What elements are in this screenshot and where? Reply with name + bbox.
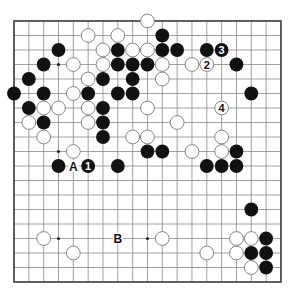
white-stone-icon bbox=[96, 43, 110, 57]
black-stone-icon bbox=[96, 130, 110, 144]
black-stone-icon bbox=[52, 159, 66, 173]
white-stone-icon bbox=[111, 29, 125, 43]
white-stone-icon bbox=[244, 232, 258, 246]
go-board[interactable]: 3124 AB bbox=[0, 0, 288, 294]
black-stone bbox=[141, 145, 155, 159]
black-stone-icon bbox=[22, 72, 36, 86]
go-board-canvas[interactable]: 3124 AB bbox=[0, 0, 288, 294]
black-stone bbox=[52, 43, 66, 57]
point-marker-b: B bbox=[113, 232, 122, 246]
black-stone bbox=[111, 43, 125, 57]
black-stone bbox=[230, 145, 244, 159]
black-stone-icon bbox=[96, 72, 110, 86]
black-stone-icon bbox=[52, 43, 66, 57]
white-stone bbox=[185, 145, 199, 159]
white-stone bbox=[230, 246, 244, 260]
black-stone-icon bbox=[200, 43, 214, 57]
white-stone bbox=[244, 232, 258, 246]
white-stone-icon bbox=[37, 130, 51, 144]
markers-layer: AB bbox=[68, 160, 122, 247]
black-stone-icon bbox=[244, 246, 258, 260]
black-stone-icon bbox=[259, 246, 273, 260]
white-stone bbox=[81, 29, 95, 43]
white-stone-icon bbox=[155, 72, 169, 86]
white-stone bbox=[155, 58, 169, 72]
black-stone bbox=[37, 116, 51, 130]
black-stone-icon bbox=[37, 58, 51, 72]
black-stone bbox=[155, 43, 169, 57]
black-stone-icon bbox=[37, 87, 51, 101]
white-stone-icon bbox=[81, 72, 95, 86]
white-stone bbox=[37, 130, 51, 144]
star-point bbox=[57, 237, 60, 240]
white-stone-icon bbox=[66, 87, 80, 101]
black-stone bbox=[259, 261, 273, 275]
black-stone-icon bbox=[259, 261, 273, 275]
white-stone-icon bbox=[126, 130, 140, 144]
white-stone-icon bbox=[141, 130, 155, 144]
black-stone-icon bbox=[230, 145, 244, 159]
white-stone bbox=[66, 58, 80, 72]
white-stone-icon bbox=[141, 43, 155, 57]
black-stone-icon bbox=[141, 58, 155, 72]
black-stone-icon bbox=[141, 145, 155, 159]
white-stone-icon bbox=[200, 246, 214, 260]
black-stone bbox=[96, 130, 110, 144]
black-stone bbox=[52, 159, 66, 173]
black-stone bbox=[81, 87, 95, 101]
white-stone-icon bbox=[22, 116, 36, 130]
black-stone bbox=[259, 246, 273, 260]
white-stone-icon bbox=[244, 261, 258, 275]
black-stone-icon bbox=[155, 43, 169, 57]
black-stone-icon bbox=[170, 43, 184, 57]
black-stone-icon bbox=[126, 87, 140, 101]
white-stone-icon bbox=[81, 116, 95, 130]
black-stone bbox=[96, 72, 110, 86]
white-stone-icon bbox=[66, 246, 80, 260]
move-number: 1 bbox=[85, 160, 91, 172]
white-stone bbox=[155, 72, 169, 86]
white-stone bbox=[37, 232, 51, 246]
point-marker-a: A bbox=[69, 160, 78, 174]
black-stone-icon bbox=[230, 159, 244, 173]
black-stone-icon bbox=[126, 72, 140, 86]
black-stone: 3 bbox=[215, 43, 229, 57]
white-stone bbox=[111, 29, 125, 43]
star-point bbox=[57, 63, 60, 66]
black-stone bbox=[155, 145, 169, 159]
black-stone bbox=[200, 43, 214, 57]
black-stone bbox=[215, 159, 229, 173]
black-stone bbox=[230, 58, 244, 72]
white-stone-icon bbox=[185, 145, 199, 159]
white-stone bbox=[96, 58, 110, 72]
star-point bbox=[146, 237, 149, 240]
black-stone-icon bbox=[155, 29, 169, 43]
black-stone bbox=[155, 29, 169, 43]
white-stone-icon bbox=[155, 58, 169, 72]
white-stone bbox=[81, 101, 95, 115]
white-stone-icon bbox=[52, 101, 66, 115]
white-stone-icon bbox=[141, 101, 155, 115]
black-stone bbox=[37, 58, 51, 72]
black-stone-icon bbox=[111, 159, 125, 173]
white-stone bbox=[52, 101, 66, 115]
black-stone-icon bbox=[22, 101, 36, 115]
black-stone bbox=[259, 232, 273, 246]
black-stone bbox=[37, 87, 51, 101]
white-stone bbox=[155, 232, 169, 246]
black-stone: 1 bbox=[81, 159, 95, 173]
move-number: 2 bbox=[204, 59, 210, 71]
white-stone bbox=[22, 116, 36, 130]
white-stone-icon bbox=[81, 29, 95, 43]
black-stone-icon bbox=[96, 101, 110, 115]
black-stone-icon bbox=[244, 203, 258, 217]
move-number: 4 bbox=[219, 102, 226, 114]
white-stone bbox=[215, 130, 229, 144]
white-stone bbox=[141, 130, 155, 144]
white-stone bbox=[230, 232, 244, 246]
black-stone-icon bbox=[96, 116, 110, 130]
black-stone bbox=[22, 101, 36, 115]
black-stone bbox=[170, 43, 184, 57]
white-stone-icon bbox=[141, 14, 155, 28]
white-stone bbox=[244, 261, 258, 275]
